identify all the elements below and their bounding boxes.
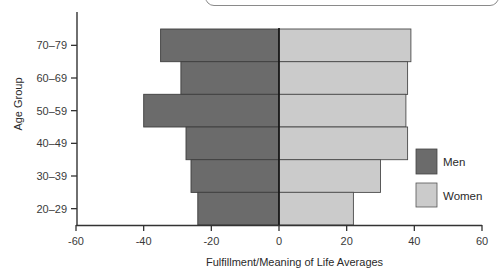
bar-men-40–49 [186, 127, 279, 160]
legend: Men Women [416, 149, 482, 207]
x-tick-label: 60 [476, 235, 488, 247]
legend-label-men: Men [443, 156, 465, 168]
y-axis-title: Age Group [12, 77, 24, 130]
x-axis-title: Fulfillment/Meaning of Life Averages [206, 256, 384, 268]
x-tick-label: -40 [136, 235, 152, 247]
bar-men-50–59 [144, 94, 279, 127]
bar-women-40–49 [279, 127, 408, 160]
x-ticks: -60-40-200204060 [68, 225, 488, 247]
bar-men-30–39 [191, 160, 279, 193]
bar-men-60–69 [181, 62, 279, 95]
y-tick-label: 70–79 [36, 39, 67, 51]
bar-women-30–39 [279, 160, 381, 193]
x-tick-label: -20 [203, 235, 219, 247]
y-tick-label: 60–69 [36, 72, 67, 84]
y-tick-label: 20–29 [36, 203, 67, 215]
x-tick-label: -60 [68, 235, 84, 247]
bar-men-70–79 [161, 29, 279, 62]
y-ticks: 70–7960–6950–5940–4930–3920–29 [36, 39, 77, 214]
x-tick-label: 40 [408, 235, 420, 247]
bar-women-70–79 [279, 29, 411, 62]
pyramid-bar-chart: 70–7960–6950–5940–4930–3920–29 -60-40-20… [0, 0, 503, 276]
bar-men-20–29 [198, 192, 279, 225]
bar-women-20–29 [279, 192, 353, 225]
x-tick-label: 20 [341, 235, 353, 247]
legend-label-women: Women [443, 190, 482, 202]
y-tick-label: 30–39 [36, 170, 67, 182]
y-tick-label: 50–59 [36, 105, 67, 117]
x-tick-label: 0 [276, 235, 282, 247]
y-tick-label: 40–49 [36, 137, 67, 149]
legend-swatch-men [416, 149, 437, 174]
bar-women-60–69 [279, 62, 408, 95]
legend-swatch-women [416, 183, 437, 207]
bar-women-50–59 [279, 94, 406, 127]
bars-group [144, 28, 411, 225]
